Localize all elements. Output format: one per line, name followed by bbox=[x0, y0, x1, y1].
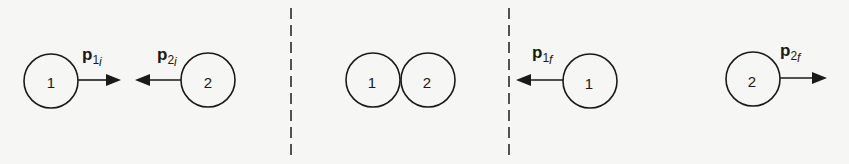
momentum-arrow-p2f bbox=[780, 72, 827, 84]
ball-label: 2 bbox=[204, 74, 212, 91]
momentum-arrow-p2i bbox=[135, 74, 181, 86]
vector-label-p2i: p2i bbox=[157, 45, 177, 69]
arrow-head-icon bbox=[516, 74, 531, 86]
arrow-head-icon bbox=[106, 74, 121, 86]
ball-2-contact: 2 bbox=[401, 53, 455, 107]
ball-label: 2 bbox=[423, 74, 431, 91]
arrow-head-icon bbox=[135, 74, 150, 86]
panel-before-collision: 1 p1i 2 p2i bbox=[24, 45, 235, 108]
momentum-arrow-p1i bbox=[78, 74, 121, 86]
ball-label: 1 bbox=[47, 74, 55, 91]
panel-after-collision: 1 p1f 2 p2f bbox=[516, 41, 827, 108]
panel-during-collision: 1 2 bbox=[346, 53, 455, 107]
ball-label: 2 bbox=[748, 73, 756, 90]
ball-label: 1 bbox=[368, 74, 376, 91]
ball-1-contact: 1 bbox=[346, 53, 400, 107]
collision-diagram: 1 p1i 2 p2i 1 2 1 bbox=[0, 0, 849, 164]
ball-label: 1 bbox=[585, 75, 593, 92]
ball-1-final: 1 bbox=[563, 54, 617, 108]
arrow-head-icon bbox=[812, 72, 827, 84]
vector-label-p1f: p1f bbox=[532, 43, 554, 67]
ball-2-final: 2 bbox=[726, 52, 780, 106]
vector-label-p2f: p2f bbox=[780, 41, 802, 65]
momentum-arrow-p1f bbox=[516, 74, 563, 86]
ball-1-initial: 1 bbox=[24, 54, 78, 108]
ball-2-initial: 2 bbox=[181, 53, 235, 107]
vector-label-p1i: p1i bbox=[82, 45, 102, 69]
